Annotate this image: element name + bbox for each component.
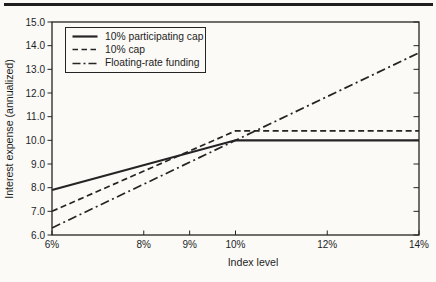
legend-item: Floating-rate funding (72, 58, 205, 68)
y-tick-label: 8.0 (31, 182, 45, 193)
legend-sample-dashed-icon (72, 45, 98, 54)
series-line-solid (52, 140, 419, 190)
figure-page: 6.07.08.09.010.011.012.013.014.015.06%8%… (0, 0, 436, 282)
x-tick-label: 8% (137, 239, 152, 250)
x-tick-label: 9% (182, 239, 197, 250)
y-tick-label: 15.0 (26, 17, 46, 28)
legend-sample-dashdot-icon (72, 59, 98, 68)
y-tick-label: 6.0 (31, 230, 45, 241)
legend-label: 10% cap (105, 45, 145, 55)
y-tick-label: 10.0 (26, 135, 46, 146)
y-tick-label: 7.0 (31, 206, 45, 217)
y-tick-label: 11.0 (26, 111, 45, 122)
y-tick-label: 13.0 (26, 64, 46, 75)
y-tick-label: 9.0 (31, 159, 45, 170)
legend-item: 10% cap (72, 45, 205, 55)
legend-sample-solid-icon (72, 32, 98, 41)
x-tick-label: 12% (317, 239, 337, 250)
legend-label: 10% participating cap (105, 32, 203, 42)
x-axis-title: Index level (228, 256, 279, 268)
legend-box: 10% participating cap10% capFloating-rat… (65, 27, 206, 73)
y-tick-label: 12.0 (26, 88, 46, 99)
series-line-dashed (52, 131, 419, 211)
x-tick-label: 10% (225, 239, 245, 250)
legend-label: Floating-rate funding (105, 58, 199, 68)
x-tick-label: 6% (45, 239, 60, 250)
legend-item: 10% participating cap (72, 32, 205, 42)
series-lines (52, 53, 419, 228)
y-axis-title: Interest expense (annualized) (3, 59, 15, 199)
x-tick-label: 14% (409, 239, 429, 250)
y-tick-label: 14.0 (26, 40, 46, 51)
